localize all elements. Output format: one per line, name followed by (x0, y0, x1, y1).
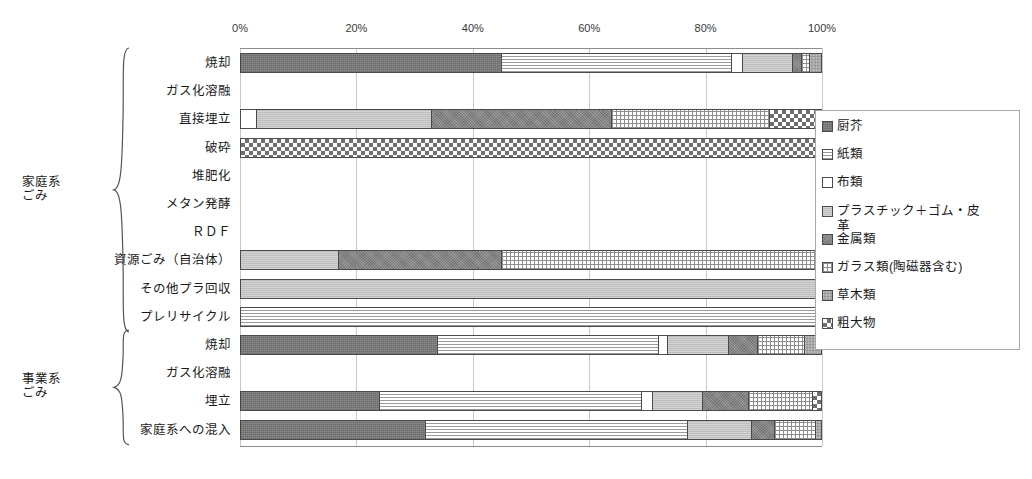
stacked-bar (240, 391, 822, 411)
gridline (589, 48, 590, 446)
bar-segment (743, 53, 792, 73)
bar-segment (758, 335, 805, 355)
bar-segment (793, 53, 802, 73)
bar-segment (816, 420, 822, 440)
x-tick-label: 60% (578, 22, 600, 34)
bar-segment (426, 420, 688, 440)
legend-swatch-icon (822, 234, 833, 245)
bar-segment (749, 391, 813, 411)
bar-segment (257, 109, 432, 129)
bar-segment (240, 138, 822, 158)
legend-swatch-icon (822, 318, 833, 329)
legend-label: プラスチック＋ゴム・皮 革 (837, 204, 980, 234)
stacked-bar-chart: 0%20%40%60%80%100% 焼却ガス化溶融直接埋立破砕堆肥化メタン発酵… (0, 0, 1032, 479)
bar-segment (502, 250, 822, 270)
bar-segment (380, 391, 642, 411)
legend-swatch-icon (822, 262, 833, 273)
bar-segment (240, 279, 822, 299)
bar-segment (612, 109, 769, 129)
legend-label: 金属類 (837, 232, 876, 247)
group-label: 家庭系 ごみ (22, 175, 108, 203)
x-tick-label: 20% (345, 22, 367, 34)
group-brace-icon (112, 47, 132, 333)
gridline (240, 48, 241, 446)
stacked-bar (240, 279, 822, 299)
bar-segment (432, 109, 612, 129)
legend-swatch-icon (822, 290, 833, 301)
x-axis-top-rule (240, 48, 822, 49)
legend-item[interactable]: ガラス類(陶磁器含む) (822, 260, 1017, 275)
bar-segment (688, 420, 752, 440)
bar-segment (729, 335, 758, 355)
stacked-bar (240, 335, 822, 355)
bar-segment (240, 335, 438, 355)
bar-segment (240, 53, 502, 73)
bar-segment (703, 391, 750, 411)
bar-segment (642, 391, 654, 411)
x-axis-bottom-rule (240, 446, 822, 447)
bar-segment (240, 420, 426, 440)
legend-label: 布類 (837, 175, 863, 190)
bar-segment (668, 335, 729, 355)
gridline (356, 48, 357, 446)
legend-label: 紙類 (837, 147, 863, 162)
bar-segment (732, 53, 744, 73)
stacked-bar (240, 109, 822, 129)
bar-segment (752, 420, 775, 440)
legend-label: 厨芥 (837, 119, 863, 134)
legend-label: 粗大物 (837, 316, 876, 331)
bar-segment (813, 391, 822, 411)
x-tick-label: 0% (232, 22, 248, 34)
group-label: 事業系 ごみ (22, 372, 108, 400)
bar-segment (240, 307, 822, 327)
legend-swatch-icon (822, 121, 833, 132)
legend-item[interactable]: 粗大物 (822, 316, 1017, 331)
bar-segment (659, 335, 668, 355)
bar-segment (653, 391, 702, 411)
legend-swatch-icon (822, 149, 833, 160)
x-tick-label: 80% (695, 22, 717, 34)
legend-item[interactable]: 草木類 (822, 288, 1017, 303)
stacked-bar (240, 138, 822, 158)
bar-segment (339, 250, 502, 270)
bar-segment (802, 53, 811, 73)
bar-segment (240, 250, 339, 270)
bar-segment (502, 53, 732, 73)
bar-segment (775, 420, 816, 440)
bar-segment (438, 335, 659, 355)
legend-item[interactable]: プラスチック＋ゴム・皮 革 (822, 204, 1017, 234)
chart-legend: 厨芥紙類布類プラスチック＋ゴム・皮 革金属類ガラス類(陶磁器含む)草木類粗大物 (815, 110, 1020, 350)
gridline (706, 48, 707, 446)
legend-swatch-icon (822, 206, 833, 217)
stacked-bar (240, 307, 822, 327)
legend-item[interactable]: 厨芥 (822, 119, 1017, 134)
gridline (473, 48, 474, 446)
legend-item[interactable]: 金属類 (822, 232, 1017, 247)
stacked-bar (240, 250, 822, 270)
group-brace-icon (112, 329, 132, 446)
bar-segment (240, 391, 380, 411)
legend-swatch-icon (822, 177, 833, 188)
legend-label: 草木類 (837, 288, 876, 303)
legend-item[interactable]: 紙類 (822, 147, 1017, 162)
x-tick-label: 100% (808, 22, 836, 34)
stacked-bar (240, 53, 822, 73)
x-tick-label: 40% (462, 22, 484, 34)
bar-segment (810, 53, 822, 73)
bar-segment (240, 109, 257, 129)
stacked-bar (240, 420, 822, 440)
legend-item[interactable]: 布類 (822, 175, 1017, 190)
legend-label: ガラス類(陶磁器含む) (837, 260, 962, 275)
